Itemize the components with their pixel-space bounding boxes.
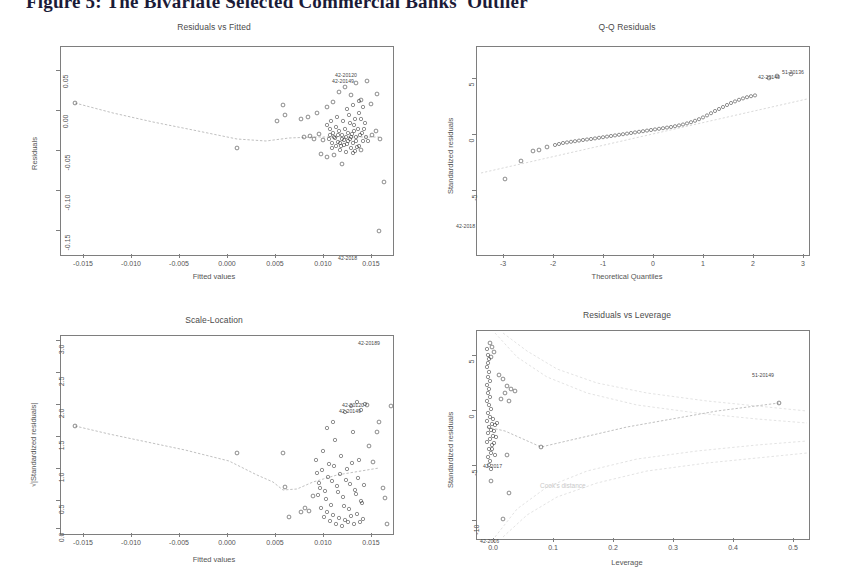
y-tick-label: -5 <box>471 470 478 476</box>
panel-title: Scale-Location <box>8 315 420 325</box>
y-axis-label: Standardized residuals <box>446 412 455 488</box>
x-tick-label: -1 <box>600 260 606 267</box>
x-tick-label: 0.000 <box>218 260 236 267</box>
x-tick-label: 3 <box>801 260 805 267</box>
y-tick-label: -10 <box>473 525 480 535</box>
x-tick-label: -3 <box>500 260 506 267</box>
panel-qq-residuals: Q-Q Residuals <box>420 22 834 290</box>
panel-title: Q-Q Residuals <box>420 22 834 32</box>
x-tick-label: 0.000 <box>218 539 236 546</box>
x-tick-label: 0.010 <box>314 539 332 546</box>
y-tick-label: 5 <box>468 360 475 364</box>
x-tick-label: -0.015 <box>73 539 93 546</box>
panel-residuals-vs-fitted: Residuals vs Fitted <box>8 22 420 290</box>
point-label: 42-20149 <box>758 74 780 80</box>
y-tick-label: 1.0 <box>58 473 65 483</box>
plot-area <box>476 330 810 540</box>
x-tick-label: 0.005 <box>266 539 284 546</box>
plot-area <box>60 335 394 535</box>
point-label: 51-20136 <box>782 69 804 75</box>
figure-title: Figure 5: The Bivariate Selected Commerc… <box>26 0 528 13</box>
point-label: 42-20149 <box>332 78 354 84</box>
x-tick-label: 0.2 <box>608 544 618 551</box>
point-label: 42-2018 <box>338 255 357 261</box>
x-tick-label: 0.4 <box>728 544 738 551</box>
x-tick-label: 0 <box>651 260 655 267</box>
x-tick-label: -0.005 <box>169 539 189 546</box>
y-tick-label: 0 <box>468 415 475 419</box>
x-tick-label: 0.0 <box>488 544 498 551</box>
panel-scale-location: Scale-Location <box>8 315 420 583</box>
x-tick-label: 2 <box>751 260 755 267</box>
point-label: 51-20149 <box>752 372 774 378</box>
y-tick-label: 0 <box>468 139 475 143</box>
y-tick-label: -0.05 <box>64 155 71 171</box>
x-axis-label: Leverage <box>420 558 834 567</box>
x-tick-label: -2 <box>550 260 556 267</box>
x-tick-label: 0.015 <box>362 260 380 267</box>
point-label: 42-20149 <box>339 408 361 414</box>
x-tick-label: 0.1 <box>548 544 558 551</box>
point-label: 42-2018 <box>456 223 475 229</box>
y-tick-label: 0.00 <box>62 115 69 129</box>
scale-location-canvas <box>61 336 393 534</box>
cooks-distance-annotation: Cook's distance <box>540 482 586 489</box>
x-axis-label: Fitted values <box>8 272 420 281</box>
y-tick-label: 5 <box>468 83 475 87</box>
point-label: 42-2017 <box>483 463 502 469</box>
x-tick-label: -0.005 <box>169 260 189 267</box>
y-tick-label: 2.5 <box>58 377 65 387</box>
y-tick-label: 1.5 <box>58 441 65 451</box>
x-axis-label: Theoretical Quantiles <box>420 272 834 281</box>
panel-residuals-vs-leverage: Residuals vs Leverage <box>420 310 834 585</box>
x-tick-label: 0.015 <box>362 539 380 546</box>
x-tick-label: 0.3 <box>668 544 678 551</box>
y-axis-label: Residuals <box>30 137 39 170</box>
leverage-plot-canvas <box>477 331 809 539</box>
x-tick-label: -0.010 <box>121 539 141 546</box>
x-tick-label: 0.005 <box>266 260 284 267</box>
panel-title: Residuals vs Fitted <box>8 22 420 32</box>
x-tick-label: 0.010 <box>314 260 332 267</box>
y-tick-label: 0.05 <box>62 75 69 89</box>
x-tick-label: -0.010 <box>121 260 141 267</box>
y-axis-label: √|Standardized residuals| <box>29 403 38 487</box>
y-tick-label: 3.0 <box>58 345 65 355</box>
y-tick-label: 0.5 <box>58 505 65 515</box>
x-tick-label: -0.015 <box>73 260 93 267</box>
x-tick-label: 1 <box>701 260 705 267</box>
x-tick-label: 0.5 <box>788 544 798 551</box>
y-tick-label: -0.15 <box>64 235 71 251</box>
y-tick-label: 0.0 <box>58 533 65 543</box>
y-tick-label: 2.0 <box>58 409 65 419</box>
y-axis-label: Standardized residuals <box>446 118 455 194</box>
y-tick-label: -5 <box>471 195 478 201</box>
x-axis-label: Fitted values <box>8 555 420 564</box>
y-tick-label: -0.10 <box>64 195 71 211</box>
panel-title: Residuals vs Leverage <box>420 310 834 320</box>
point-label: 42-20189 <box>358 340 380 346</box>
